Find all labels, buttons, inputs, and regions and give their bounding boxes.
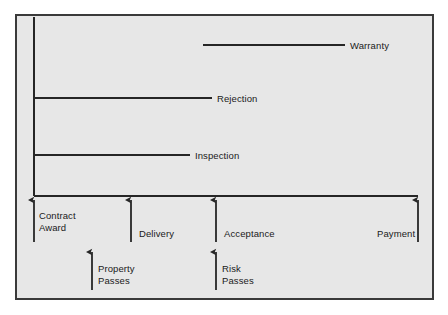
milestone-label-line: Payment (377, 228, 415, 239)
milestone-label-line: Delivery (139, 228, 174, 239)
phase-label-warranty: Warranty (350, 40, 389, 51)
milestone-label-property-passes: PropertyPasses (98, 263, 135, 286)
milestone-label-line: Acceptance (224, 228, 275, 239)
phase-label-inspection: Inspection (195, 150, 239, 161)
phase-label-rejection: Rejection (217, 93, 258, 104)
milestone-label-payment: Payment (377, 228, 415, 239)
milestone-label-contract-award: ContractAward (39, 210, 76, 233)
milestone-label-line: Risk (222, 263, 254, 275)
milestone-label-line: Award (39, 222, 76, 234)
milestone-label-line: Passes (222, 275, 254, 287)
milestone-label-line: Property (98, 263, 135, 275)
milestone-label-delivery: Delivery (139, 228, 174, 239)
milestone-label-line: Contract (39, 210, 76, 222)
milestone-label-risk-passes: RiskPasses (222, 263, 254, 286)
diagram-stage: WarrantyRejectionInspectionContractAward… (0, 0, 448, 315)
milestone-label-line: Passes (98, 275, 135, 287)
milestone-label-acceptance: Acceptance (224, 228, 275, 239)
